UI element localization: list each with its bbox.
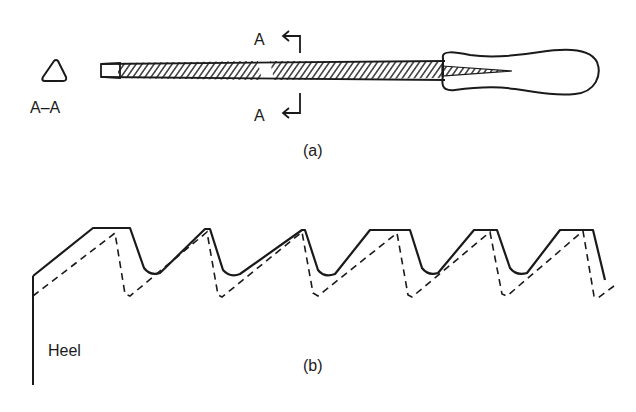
cut-marker-top-label: A <box>254 32 265 48</box>
cut-marker-bottom-label: A <box>254 108 265 124</box>
section-triangle-icon <box>42 60 66 81</box>
section-cut-arrow-top <box>283 31 300 53</box>
diagram-drawing <box>0 0 636 412</box>
heel-label: Heel <box>48 343 81 359</box>
caption-a: (a) <box>303 143 323 159</box>
section-cut-arrow-bottom <box>283 93 300 118</box>
worn-tooth-profile <box>33 231 614 298</box>
section-label: A–A <box>30 100 60 116</box>
caption-b: (b) <box>303 358 323 374</box>
file-blade <box>101 61 512 80</box>
file-diagram-figure: A–A A A (a) Heel (b) <box>0 0 636 412</box>
